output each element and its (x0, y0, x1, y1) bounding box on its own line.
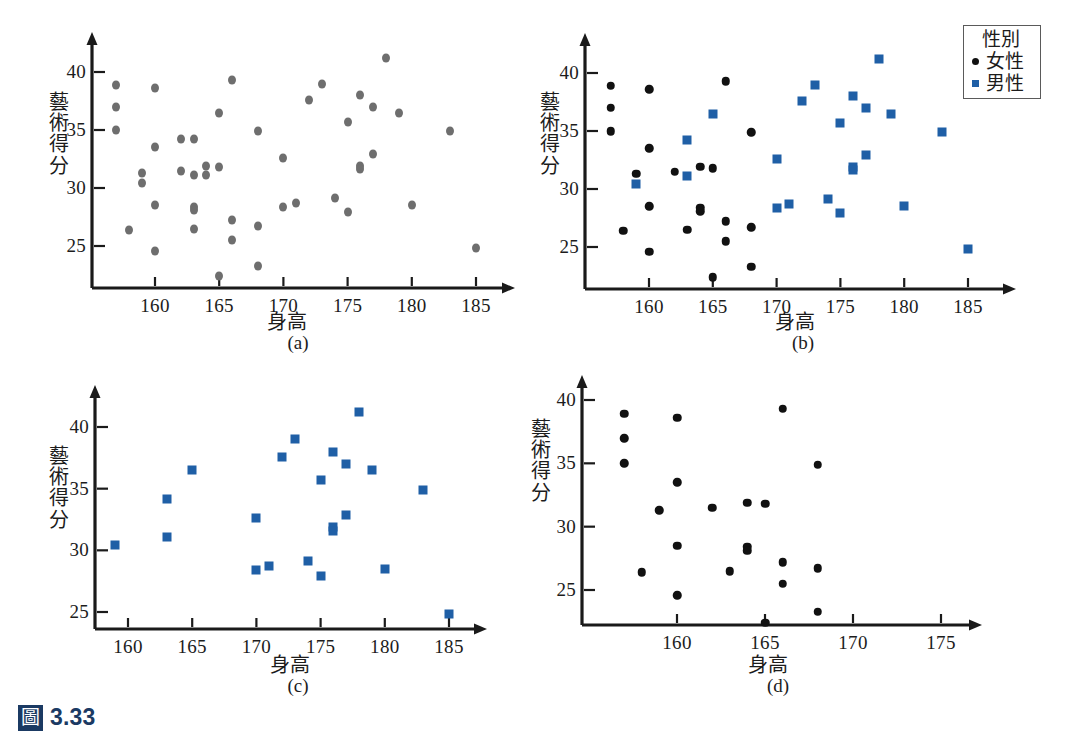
female-dot-icon (970, 58, 981, 65)
x-axis-title-c: 身高 (270, 649, 310, 678)
data-point (254, 127, 262, 136)
x-tick-label: 185 (953, 296, 982, 318)
data-point (761, 619, 770, 628)
data-point (814, 564, 823, 573)
data-point (726, 567, 735, 576)
data-point (761, 500, 770, 509)
y-axis-title-char: 分 (48, 156, 70, 177)
data-point (177, 135, 185, 144)
y-axis-title-char: 分 (530, 483, 552, 504)
data-point (709, 164, 718, 173)
data-point (836, 209, 845, 218)
y-axis-arrow (90, 385, 101, 398)
data-point (342, 460, 351, 469)
data-point (344, 117, 352, 126)
y-axis-title-char: 得 (530, 461, 552, 482)
y-axis-title-char: 藝 (48, 446, 70, 467)
y-axis-title-char: 得 (48, 488, 70, 509)
legend-title: 性別 (970, 29, 1032, 50)
y-axis-title-d: 藝術得分 (530, 419, 552, 504)
data-point (721, 237, 730, 246)
x-tick-label: 175 (306, 636, 335, 658)
data-point (810, 80, 819, 89)
data-point (638, 568, 647, 577)
legend-item-male[interactable]: 男性 (970, 73, 1032, 94)
data-point (254, 222, 262, 231)
data-point (318, 79, 326, 88)
y-axis-title-char: 藝 (48, 92, 70, 113)
scatter-panel-a: 16016517017518018525303540 藝術得分 身高 (a) (0, 0, 545, 371)
data-point (162, 532, 171, 541)
data-point (138, 168, 146, 177)
x-axis-arrow (474, 624, 487, 635)
x-tick-label: 160 (113, 636, 142, 658)
data-point (721, 217, 730, 226)
data-point (814, 460, 823, 469)
data-point (367, 466, 376, 475)
y-axis-arrow (580, 33, 591, 46)
data-point (292, 199, 300, 208)
data-point (849, 166, 858, 175)
data-point (279, 202, 287, 211)
data-point (369, 102, 377, 111)
data-point (655, 506, 664, 515)
y-axis-title-char: 分 (48, 510, 70, 531)
data-point (747, 128, 756, 137)
y-axis-title-char: 分 (539, 156, 561, 177)
x-tick-label: 160 (140, 295, 169, 317)
data-point (696, 163, 705, 172)
data-point (964, 245, 973, 254)
data-point (380, 564, 389, 573)
legend-item-female[interactable]: 女性 (970, 51, 1032, 72)
y-axis-title-char: 術 (48, 467, 70, 488)
y-axis-title-c: 藝術得分 (48, 446, 70, 531)
data-point (445, 610, 454, 619)
data-point (887, 109, 896, 118)
data-point (329, 526, 338, 535)
y-tick-label: 30 (51, 539, 89, 561)
data-point (112, 80, 120, 89)
data-point (743, 546, 752, 555)
data-point (151, 143, 159, 152)
data-point (252, 514, 261, 523)
data-point (356, 165, 364, 174)
data-point (673, 591, 682, 600)
panel-caption-a: (a) (287, 332, 308, 354)
x-axis-arrow (502, 283, 515, 294)
data-point (228, 236, 236, 245)
data-point (606, 104, 615, 113)
data-point (252, 566, 261, 575)
y-axis-arrow (577, 375, 588, 388)
data-point (673, 413, 682, 422)
data-point (606, 82, 615, 91)
data-point (138, 179, 146, 188)
x-tick-label: 170 (242, 636, 271, 658)
data-point (356, 91, 364, 100)
y-tick-label: 25 (48, 235, 86, 257)
data-point (708, 109, 717, 118)
x-axis-title-b: 身高 (775, 306, 815, 335)
x-tick-label: 160 (634, 296, 663, 318)
data-point (772, 203, 781, 212)
legend-label-male: 男性 (986, 73, 1024, 94)
data-point (254, 261, 262, 270)
x-tick-label: 180 (889, 296, 918, 318)
data-point (112, 126, 120, 135)
data-point (446, 127, 454, 136)
figure-number: 3.33 (50, 704, 96, 731)
x-tick-label: 180 (370, 636, 399, 658)
data-point (620, 434, 629, 443)
data-point (823, 195, 832, 204)
data-point (190, 135, 198, 144)
data-point (290, 435, 299, 444)
figure-caption: 圖 3.33 (18, 704, 96, 731)
y-axis-title-char: 藝 (539, 92, 561, 113)
data-point (111, 541, 120, 550)
data-point (645, 247, 654, 256)
data-point (785, 200, 794, 209)
y-tick-label: 40 (541, 62, 579, 84)
x-tick-label: 160 (662, 632, 691, 654)
data-point (709, 273, 718, 282)
axes-d (545, 371, 1089, 742)
data-point (215, 163, 223, 172)
